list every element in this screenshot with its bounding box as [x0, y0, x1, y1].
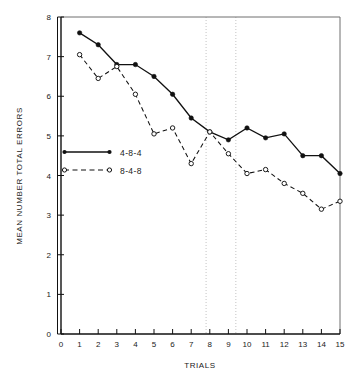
data-point: [263, 136, 267, 140]
legend-marker-open-circle: [107, 168, 111, 172]
data-point: [301, 191, 305, 195]
data-point: [301, 153, 305, 157]
data-point: [338, 171, 342, 175]
x-tick-label: 9: [226, 340, 231, 349]
x-tick-label: 5: [152, 340, 157, 349]
x-tick-label: 4: [133, 340, 138, 349]
data-point: [338, 199, 342, 203]
data-point: [170, 92, 174, 96]
legend-marker-filled-circle: [107, 150, 111, 154]
y-tick-label: 6: [47, 92, 52, 101]
x-axis-title: TRIALS: [184, 361, 216, 370]
chart-figure: 0123456789101112131415 012345678 TRIALS …: [0, 0, 356, 379]
x-tick-label: 14: [317, 340, 326, 349]
x-tick-label: 2: [96, 340, 101, 349]
y-tick-label: 5: [47, 132, 52, 141]
y-tick-label: 3: [47, 211, 52, 220]
legend-label-series-2: 8-4-8: [120, 166, 142, 176]
data-point: [226, 152, 230, 156]
data-point: [245, 126, 249, 130]
data-point: [133, 62, 137, 66]
x-tick-label: 6: [170, 340, 175, 349]
x-tick-label: 7: [189, 340, 194, 349]
data-point: [77, 52, 81, 56]
legend-label-series-1: 4-8-4: [120, 148, 142, 158]
x-tick-label: 15: [336, 340, 345, 349]
y-tick-label: 1: [47, 290, 52, 299]
chart-background: [0, 0, 356, 379]
data-point: [133, 92, 137, 96]
legend-marker-filled-circle: [62, 150, 66, 154]
data-point: [245, 171, 249, 175]
data-point: [77, 31, 81, 35]
x-tick-label: 10: [243, 340, 252, 349]
x-tick-label: 1: [77, 340, 82, 349]
data-point: [282, 132, 286, 136]
legend-marker-open-circle: [62, 168, 66, 172]
y-tick-label: 8: [47, 13, 52, 22]
x-tick-label: 0: [59, 340, 64, 349]
line-chart: 0123456789101112131415 012345678 TRIALS …: [0, 0, 356, 379]
data-point: [115, 64, 119, 68]
data-point: [96, 76, 100, 80]
data-point: [189, 161, 193, 165]
y-tick-label: 4: [47, 172, 52, 181]
data-point: [152, 132, 156, 136]
data-point: [263, 167, 267, 171]
data-point: [189, 116, 193, 120]
y-tick-label: 7: [47, 53, 52, 62]
data-point: [208, 130, 212, 134]
x-tick-label: 11: [261, 340, 270, 349]
data-point: [226, 138, 230, 142]
data-point: [170, 126, 174, 130]
data-point: [282, 181, 286, 185]
y-tick-label: 2: [47, 251, 52, 260]
data-point: [319, 153, 323, 157]
y-tick-label: 0: [47, 330, 52, 339]
x-tick-label: 8: [208, 340, 213, 349]
x-tick-label: 13: [298, 340, 307, 349]
data-point: [319, 207, 323, 211]
data-point: [96, 43, 100, 47]
x-tick-label: 12: [280, 340, 289, 349]
x-tick-label: 3: [115, 340, 120, 349]
data-point: [152, 74, 156, 78]
y-axis-title: MEAN NUMBER TOTAL ERRORS: [15, 107, 24, 245]
